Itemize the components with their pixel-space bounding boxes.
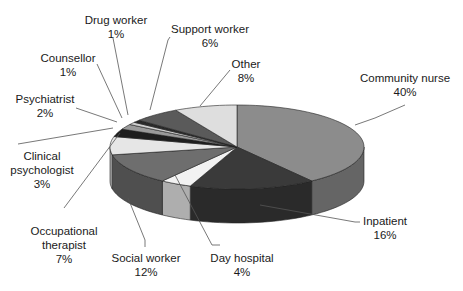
slice-category-label: Other: [232, 58, 261, 70]
slice-category-label: Day hospital: [210, 252, 273, 264]
slice-category-label: therapist: [42, 239, 87, 251]
slice-label: Occupationaltherapist7%: [30, 225, 97, 265]
leader-line: [76, 108, 117, 122]
pie-tops: [110, 105, 364, 189]
leader-line: [18, 128, 113, 144]
slice-category-label: Drug worker: [85, 14, 148, 26]
slice-value-label: 1%: [60, 66, 77, 78]
slice-category-label: Occupational: [30, 225, 97, 237]
slice-value-label: 8%: [238, 72, 255, 84]
slice-value-label: 6%: [202, 37, 219, 49]
slice-label: Psychiatrist2%: [16, 93, 76, 119]
slice-value-label: 4%: [234, 266, 251, 278]
slice-label: Other8%: [232, 58, 261, 84]
slice-value-label: 1%: [108, 28, 125, 40]
slice-category-label: Psychiatrist: [16, 93, 76, 105]
slice-category-label: Community nurse: [360, 72, 450, 84]
leader-line: [355, 105, 405, 125]
slice-category-label: Counsellor: [41, 52, 96, 64]
slice-category-label: psychologist: [10, 164, 74, 176]
slice-label: Day hospital4%: [210, 252, 273, 278]
slice-label: Community nurse40%: [360, 72, 450, 98]
leader-line: [200, 70, 230, 106]
slice-category-label: Social worker: [111, 252, 180, 264]
slice-value-label: 40%: [393, 86, 416, 98]
leader-line: [150, 37, 170, 110]
slice-value-label: 7%: [56, 253, 73, 265]
slice-value-label: 2%: [37, 107, 54, 119]
slice-label: Inpatient16%: [363, 215, 408, 241]
slice-label: Counsellor1%: [41, 52, 96, 78]
pie-chart: Community nurse40%Inpatient16%Day hospit…: [0, 0, 463, 291]
slice-value-label: 3%: [34, 178, 51, 190]
slice-value-label: 16%: [373, 229, 396, 241]
slice-category-label: Support worker: [171, 23, 249, 35]
slice-category-label: Inpatient: [363, 215, 408, 227]
leader-line: [97, 64, 122, 118]
slice-label: Support worker6%: [171, 23, 249, 49]
slice-label: Clinicalpsychologist3%: [10, 150, 74, 190]
slice-value-label: 12%: [134, 266, 157, 278]
slice-label: Drug worker1%: [85, 14, 148, 40]
slice-category-label: Clinical: [23, 150, 60, 162]
slice-label: Social worker12%: [111, 252, 180, 278]
pie-side-day-hospital: [162, 181, 190, 220]
